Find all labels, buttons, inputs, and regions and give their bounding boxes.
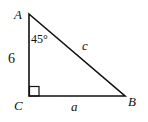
side-label-ab: c [82,38,88,53]
vertex-label-c: C [14,98,23,113]
triangle-abc [29,14,125,96]
side-label-ac: 6 [8,51,15,66]
vertex-label-a: A [13,7,22,22]
right-angle-marker [30,87,40,97]
side-label-cb: a [71,99,78,114]
angle-label-a: 45° [31,32,48,46]
triangle-diagram: A 45° 6 c C a B [0,0,148,122]
vertex-label-b: B [128,94,136,109]
